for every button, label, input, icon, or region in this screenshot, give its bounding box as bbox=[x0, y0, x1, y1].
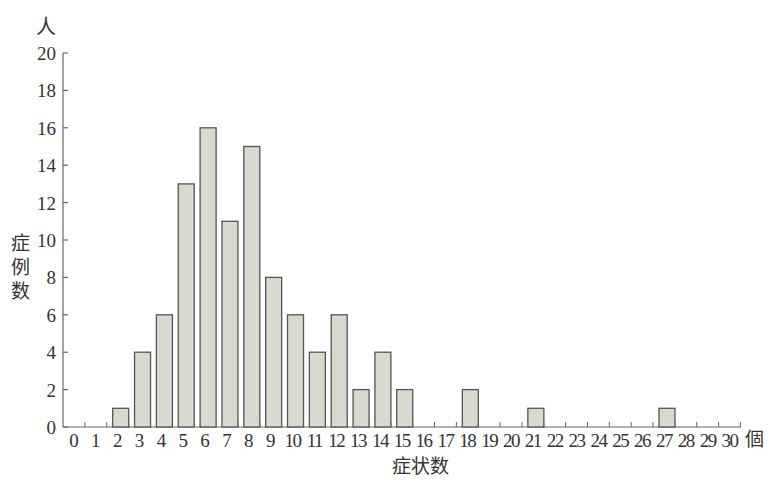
x-tick-label: 27 bbox=[656, 430, 673, 451]
y-tick-label: 8 bbox=[47, 267, 57, 288]
y-tick-label: 16 bbox=[37, 118, 56, 139]
bar-5 bbox=[178, 184, 194, 427]
x-tick-label: 16 bbox=[416, 430, 433, 451]
x-tick-label: 17 bbox=[437, 430, 454, 451]
x-tick-label: 8 bbox=[244, 430, 254, 451]
bars bbox=[113, 128, 675, 427]
x-tick-label: 13 bbox=[350, 430, 367, 451]
y-tick-label: 10 bbox=[37, 230, 56, 251]
bar-4 bbox=[156, 315, 172, 427]
x-tick-label: 24 bbox=[590, 430, 608, 451]
bar-27 bbox=[659, 408, 675, 427]
x-tick-label: 29 bbox=[700, 430, 717, 451]
x-tick-label: 21 bbox=[525, 430, 542, 451]
bar-11 bbox=[309, 352, 325, 427]
x-tick-label: 10 bbox=[285, 430, 302, 451]
x-tick-label: 26 bbox=[634, 430, 651, 451]
bar-2 bbox=[113, 408, 129, 427]
x-tick-label: 3 bbox=[135, 430, 145, 451]
x-tick-label: 6 bbox=[200, 430, 210, 451]
bar-18 bbox=[462, 390, 478, 427]
x-tick-label: 2 bbox=[113, 430, 123, 451]
y-axis-title-char: 例 bbox=[11, 256, 30, 278]
x-tick-label: 28 bbox=[678, 430, 695, 451]
x-tick-label: 30 bbox=[722, 430, 739, 451]
x-tick-label: 12 bbox=[328, 430, 345, 451]
x-axis-title: 症状数 bbox=[392, 455, 449, 477]
x-tick-label: 22 bbox=[547, 430, 564, 451]
x-tick-label: 23 bbox=[569, 430, 586, 451]
x-tick-label: 20 bbox=[503, 430, 520, 451]
x-tick-label: 18 bbox=[459, 430, 476, 451]
y-tick-label: 0 bbox=[47, 417, 57, 438]
y-tick-label: 2 bbox=[47, 380, 57, 401]
bar-9 bbox=[266, 277, 282, 427]
y-tick-label: 12 bbox=[37, 193, 56, 214]
bar-13 bbox=[353, 390, 369, 427]
x-tick-label: 5 bbox=[179, 430, 189, 451]
y-tick-label: 18 bbox=[37, 80, 56, 101]
bar-21 bbox=[528, 408, 544, 427]
bar-7 bbox=[222, 221, 238, 427]
x-tick-label: 11 bbox=[307, 430, 323, 451]
y-tick-label: 20 bbox=[37, 43, 56, 64]
x-tick-label: 14 bbox=[372, 430, 390, 451]
bar-10 bbox=[288, 315, 304, 427]
x-unit-label: 個 bbox=[745, 428, 764, 450]
x-tick-label: 19 bbox=[481, 430, 498, 451]
x-tick-label: 1 bbox=[91, 430, 101, 451]
bar-15 bbox=[397, 390, 413, 427]
histogram-chart: 02468101214161820 0123456789101112131415… bbox=[0, 0, 770, 491]
y-axis-title-char: 症 bbox=[11, 232, 30, 254]
x-tick-label: 0 bbox=[69, 430, 79, 451]
bar-8 bbox=[244, 147, 260, 428]
y-axis-title: 症例数 bbox=[11, 232, 30, 302]
x-tick-label: 9 bbox=[266, 430, 276, 451]
y-axis-title-char: 数 bbox=[11, 280, 30, 302]
bar-6 bbox=[200, 128, 216, 427]
y-tick-label: 6 bbox=[47, 305, 57, 326]
x-tick-label: 15 bbox=[394, 430, 411, 451]
bar-14 bbox=[375, 352, 391, 427]
y-axis: 02468101214161820 bbox=[37, 43, 68, 438]
y-tick-label: 14 bbox=[37, 155, 57, 176]
y-tick-label: 4 bbox=[47, 342, 57, 363]
x-tick-label: 4 bbox=[157, 430, 167, 451]
bar-3 bbox=[135, 352, 151, 427]
x-tick-label: 7 bbox=[222, 430, 232, 451]
x-tick-label: 25 bbox=[612, 430, 629, 451]
bar-12 bbox=[331, 315, 347, 427]
y-unit-label: 人 bbox=[36, 15, 56, 39]
